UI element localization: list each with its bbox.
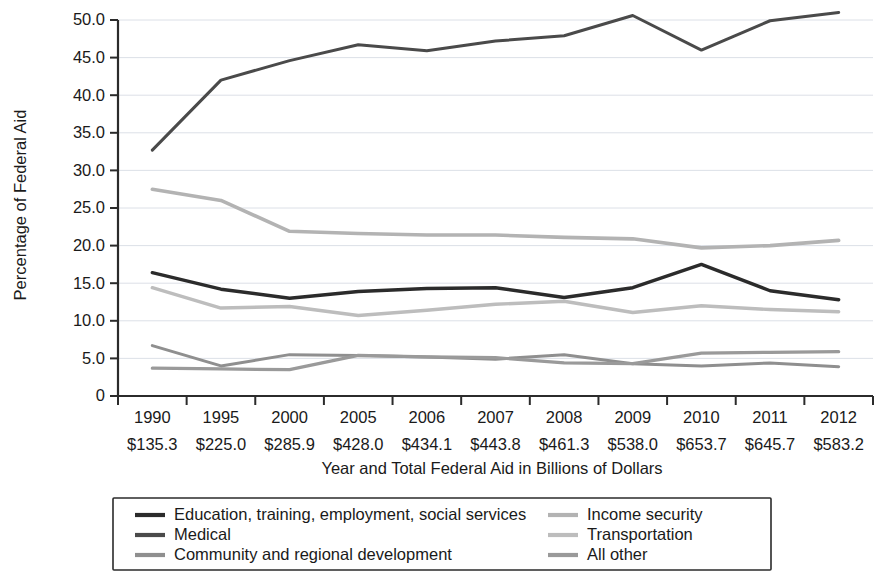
x-axis-tick-label: 1990 xyxy=(134,408,171,426)
y-axis-title: Percentage of Federal Aid xyxy=(11,110,29,301)
legend-label-3: Community and regional development xyxy=(174,545,452,563)
x-axis-tick-sublabel: $538.0 xyxy=(608,435,658,453)
x-axis-tick-sublabel: $443.8 xyxy=(470,435,520,453)
legend-label-6: All other xyxy=(587,545,648,563)
legend-label-1: Education, training, employment, social … xyxy=(174,505,526,523)
x-axis-tick-sublabel: $135.3 xyxy=(127,435,177,453)
x-axis-tick-label: 2005 xyxy=(340,408,377,426)
x-axis-tick-label: 2010 xyxy=(683,408,720,426)
chart-legend: Education, training, employment, social … xyxy=(113,498,771,570)
y-axis-tick-label: 45.0 xyxy=(73,48,105,66)
x-axis-tick-label: 2007 xyxy=(477,408,514,426)
y-axis-tick-label: 5.0 xyxy=(82,349,105,367)
y-axis-tick-label: 15.0 xyxy=(73,274,105,292)
y-axis-tick-label: 0 xyxy=(96,386,105,404)
federal-aid-line-chart: 05.010.015.020.025.030.035.040.045.050.0… xyxy=(0,0,884,585)
legend-label-5: Transportation xyxy=(587,525,693,543)
x-axis-title: Year and Total Federal Aid in Billions o… xyxy=(321,459,662,477)
x-axis-tick-sublabel: $645.7 xyxy=(745,435,795,453)
y-axis-title-group: Percentage of Federal Aid xyxy=(11,110,29,301)
legend-label-4: Income security xyxy=(587,505,703,523)
x-axis-tick-sublabel: $285.9 xyxy=(264,435,314,453)
x-axis-tick-sublabel: $434.1 xyxy=(402,435,452,453)
chart-figure: 05.010.015.020.025.030.035.040.045.050.0… xyxy=(0,0,884,585)
legend-label-2: Medical xyxy=(174,525,231,543)
x-axis-tick-label: 2008 xyxy=(546,408,583,426)
x-axis-tick-sublabel: $461.3 xyxy=(539,435,589,453)
y-axis-tick-label: 35.0 xyxy=(73,123,105,141)
y-axis-tick-label: 40.0 xyxy=(73,86,105,104)
x-axis-tick-label: 1995 xyxy=(203,408,240,426)
y-axis-tick-label: 10.0 xyxy=(73,311,105,329)
x-axis-tick-label: 2011 xyxy=(752,408,787,426)
x-axis-tick-label: 2012 xyxy=(820,408,857,426)
y-axis-tick-label: 20.0 xyxy=(73,236,105,254)
x-axis-tick-label: 2000 xyxy=(271,408,308,426)
x-axis-tick-sublabel: $653.7 xyxy=(676,435,726,453)
y-axis-tick-label: 25.0 xyxy=(73,198,105,216)
y-axis-tick-label: 30.0 xyxy=(73,161,105,179)
y-axis-tick-label: 50.0 xyxy=(73,10,105,28)
x-axis-tick-label: 2009 xyxy=(614,408,651,426)
x-axis-tick-sublabel: $428.0 xyxy=(333,435,383,453)
x-axis-tick-sublabel: $225.0 xyxy=(196,435,246,453)
x-axis-tick-label: 2006 xyxy=(409,408,446,426)
x-axis-tick-sublabel: $583.2 xyxy=(813,435,863,453)
